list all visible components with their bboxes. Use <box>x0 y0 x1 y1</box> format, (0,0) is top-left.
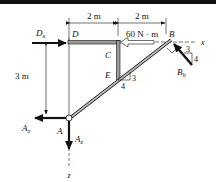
point-D-label: D <box>71 29 79 39</box>
force-Dx: Dx <box>32 28 66 43</box>
rod-AB <box>70 40 171 118</box>
slope-E-rise: 3 <box>132 74 136 83</box>
member-CE <box>117 41 121 81</box>
z-axis-label: z <box>66 171 71 180</box>
force-Bh-label: Bh <box>177 67 186 78</box>
free-body-diagram: 2 m 2 m z x D B C E A 60 N · m Dx 3 m Ax <box>0 0 216 182</box>
force-Az-label: Az <box>74 134 84 145</box>
dimension-3m: 3 m <box>15 46 46 114</box>
slope-triangle-B: 3 4 <box>184 45 198 64</box>
dim-label-left-2m: 2 m <box>87 11 101 21</box>
point-B-label: B <box>169 29 175 39</box>
right-angle-marker-B <box>167 48 177 53</box>
slope-E-run: 4 <box>121 82 125 91</box>
force-Az: Az <box>69 121 84 149</box>
top-border <box>0 0 216 4</box>
point-A-label: A <box>56 126 63 136</box>
force-Ax-label: Ax <box>21 123 31 134</box>
point-C-label: C <box>105 50 112 60</box>
dim-label-3m: 3 m <box>15 71 29 81</box>
moment-label: 60 N · m <box>126 29 158 39</box>
moment-arrow-60Nm: 60 N · m <box>121 29 159 47</box>
member-DC <box>68 41 120 45</box>
dim-label-right-2m: 2 m <box>135 11 149 21</box>
pin-A <box>66 115 72 121</box>
slope-B-horizontal: 3 <box>186 45 190 54</box>
slope-B-vertical: 4 <box>194 55 198 64</box>
x-axis-label: x <box>200 38 205 47</box>
point-E-label: E <box>104 70 111 80</box>
force-Dx-label: Dx <box>35 28 46 39</box>
